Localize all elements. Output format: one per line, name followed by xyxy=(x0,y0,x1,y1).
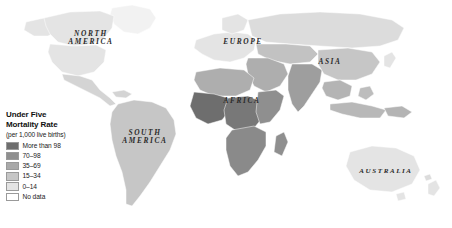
legend-item[interactable]: 0–14 xyxy=(6,181,98,191)
map-legend: Under Five Mortality Rate (per 1,000 liv… xyxy=(6,110,98,202)
legend-item-label: 35–69 xyxy=(23,162,41,170)
legend-swatch-icon xyxy=(6,162,19,170)
legend-item-label: 0–14 xyxy=(23,183,37,191)
legend-swatch-icon xyxy=(6,152,19,160)
legend-title-line-2: Mortality Rate xyxy=(6,120,58,129)
legend-item[interactable]: No data xyxy=(6,192,98,202)
legend-item-label: More than 98 xyxy=(23,142,61,150)
legend-item[interactable]: 35–69 xyxy=(6,161,98,171)
legend-title: Under Five Mortality Rate xyxy=(6,110,98,129)
legend-swatch-icon xyxy=(6,193,19,201)
legend-items: More than 98 70–98 35–69 15–34 0–14 No d xyxy=(6,141,98,202)
legend-item[interactable]: More than 98 xyxy=(6,141,98,151)
legend-item-label: No data xyxy=(23,193,46,201)
legend-swatch-icon xyxy=(6,142,19,150)
legend-subtitle: (per 1,000 live births) xyxy=(6,130,98,139)
legend-title-line-1: Under Five xyxy=(6,110,46,119)
legend-item[interactable]: 15–34 xyxy=(6,171,98,181)
legend-swatch-icon xyxy=(6,182,19,190)
legend-swatch-icon xyxy=(6,172,19,180)
legend-item-label: 15–34 xyxy=(23,172,41,180)
legend-item[interactable]: 70–98 xyxy=(6,151,98,161)
legend-item-label: 70–98 xyxy=(23,152,41,160)
world-map-figure: NORTH AMERICA SOUTH AMERICA EUROPE AFRIC… xyxy=(0,0,452,228)
